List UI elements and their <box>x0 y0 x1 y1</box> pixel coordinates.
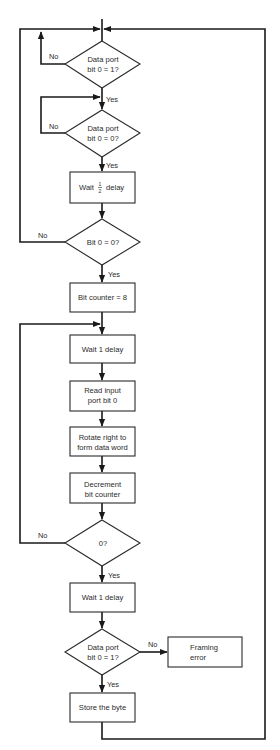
edge-label-yes: Yes <box>108 270 120 279</box>
edge-label-no: No <box>49 52 58 61</box>
process-wait-1-delay-first: Wait 1 delay <box>70 335 135 363</box>
edge-label-yes: Yes <box>106 95 118 104</box>
decision-data-port-bit0-eq-1-stop: Data port bit 0 = 1? <box>65 629 140 675</box>
node-text: bit 0 = 1? <box>87 65 118 74</box>
node-text: Wait 1 delay <box>82 345 124 354</box>
edge-label-no: No <box>38 531 47 540</box>
node-text: Framing <box>190 643 218 652</box>
node-text: Data port <box>87 55 119 64</box>
node-text: Rotate right to <box>79 433 127 442</box>
flowchart-svg: Data port bit 0 = 1? No Yes Data port bi… <box>0 0 280 750</box>
process-read-input-port: Read input port bit 0 <box>70 381 135 411</box>
node-text: bit 0 = 1? <box>87 653 118 662</box>
flowchart-canvas: Data port bit 0 = 1? No Yes Data port bi… <box>0 0 280 750</box>
edge-label-no: No <box>148 640 157 649</box>
node-text: Data port <box>87 643 119 652</box>
edge-label-yes: Yes <box>107 680 119 689</box>
node-text: Store the byte <box>79 703 126 712</box>
process-store-byte: Store the byte <box>70 693 135 722</box>
node-text: Bit counter = 8 <box>78 293 127 302</box>
node-text: Wait <box>79 183 95 192</box>
fraction-denominator: 2 <box>99 188 102 194</box>
decision-bit0-eq-0: Bit 0 = 0? <box>65 219 140 265</box>
node-text: Data port <box>87 124 119 133</box>
edge-label-yes: Yes <box>108 571 120 580</box>
process-wait-1-delay-second: Wait 1 delay <box>70 583 135 612</box>
decision-data-port-bit0-eq-0: Data port bit 0 = 0? <box>65 110 140 157</box>
node-text: bit counter <box>85 490 121 499</box>
node-text: Decrement <box>84 480 122 489</box>
node-text: form data word <box>77 443 128 452</box>
edge-label-no: No <box>49 122 58 131</box>
edge-label-yes: Yes <box>106 161 118 170</box>
node-text: error <box>190 653 207 662</box>
edge-label-no: No <box>38 231 47 240</box>
process-wait-half-delay: Wait 1 2 delay <box>70 172 135 203</box>
process-rotate-right: Rotate right to form data word <box>70 427 135 456</box>
process-bit-counter-8: Bit counter = 8 <box>70 283 135 312</box>
decision-data-port-bit0-eq-1-first: Data port bit 0 = 1? <box>65 41 140 88</box>
node-text: port bit 0 <box>88 396 118 405</box>
node-text: 0? <box>99 539 107 548</box>
decision-counter-zero: 0? <box>65 520 140 566</box>
node-text: bit 0 = 0? <box>87 134 118 143</box>
node-text: Bit 0 = 0? <box>87 238 119 247</box>
node-text: Wait 1 delay <box>82 593 124 602</box>
node-text: delay <box>106 183 124 192</box>
process-decrement-bit-counter: Decrement bit counter <box>70 473 135 503</box>
fraction-numerator: 1 <box>99 181 102 187</box>
node-text: Read input <box>84 386 122 395</box>
process-framing-error: Framing error <box>168 637 242 667</box>
